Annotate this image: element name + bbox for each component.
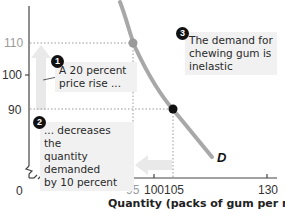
callout-quantity-decrease: ... decreases the quantity demanded by 1… [40, 122, 134, 191]
quantity-decrease-arrow [135, 155, 172, 175]
callout-2-line-1: ... decreases the [44, 124, 130, 150]
y-tick-110: 110 [4, 36, 23, 50]
y-tick-90: 90 [8, 103, 22, 117]
final-point [169, 105, 178, 114]
badge-2: 2 [33, 116, 46, 129]
callout-3-line-2: chewing gum is [189, 47, 273, 60]
badge-3: 3 [176, 27, 189, 40]
x-tick-100: 100 [144, 183, 164, 197]
badge-1: 1 [51, 55, 64, 68]
x-tick-130: 130 [258, 183, 278, 197]
callout-inelastic: The demand for chewing gum is inelastic [185, 32, 277, 75]
demand-curve-label: D [217, 150, 226, 165]
callout-3-line-1: The demand for [189, 34, 273, 47]
x-tick-105: 105 [164, 183, 184, 197]
price-rise-arrow [31, 45, 51, 110]
x-axis-label: Quantity (packs of gum per month) [108, 197, 285, 210]
callout-2-line-3: by 10 percent [44, 176, 130, 189]
y-tick-0: 0 [16, 184, 23, 198]
callout-2-line-2: quantity demanded [44, 150, 130, 176]
initial-point [129, 39, 138, 48]
callout-price-rise: A 20 percent price rise ... [55, 62, 137, 92]
callout-3-line-3: inelastic [189, 60, 273, 73]
y-tick-100: 100 [2, 68, 22, 82]
callout-1-line-2: price rise ... [59, 77, 133, 90]
callout-1-line-1: A 20 percent [59, 64, 133, 77]
y-axis [25, 6, 32, 178]
